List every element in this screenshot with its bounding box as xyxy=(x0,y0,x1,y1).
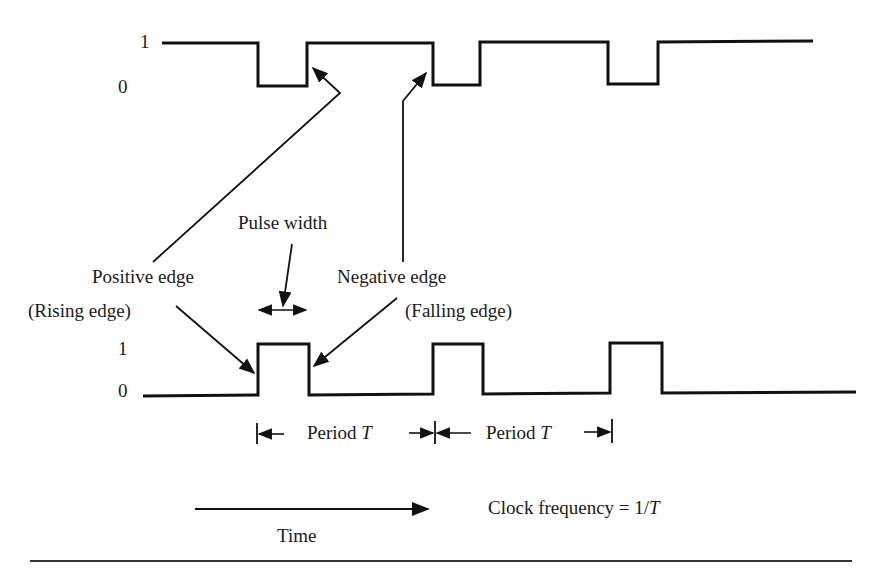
clock-frequency-label: Clock frequency = 1/T xyxy=(488,497,660,519)
positive-edge-arrow-bottom xyxy=(176,306,254,373)
period-2-text: Period xyxy=(486,422,540,443)
positive-edge-label: Positive edge xyxy=(92,266,194,288)
period-1-var: T xyxy=(361,422,372,443)
pulse-width-label: Pulse width xyxy=(238,212,327,234)
period-2-label: Period T xyxy=(486,422,551,444)
negative-edge-arrow-top xyxy=(403,73,426,262)
rising-edge-label: (Rising edge) xyxy=(28,300,131,322)
top-waveform xyxy=(162,41,813,86)
negative-edge-arrow-bottom xyxy=(314,298,397,366)
negative-edge-label: Negative edge xyxy=(337,266,446,288)
period-1-text: Period xyxy=(307,422,361,443)
time-label: Time xyxy=(277,525,316,547)
period-2-var: T xyxy=(540,422,551,443)
top-label-high: 1 xyxy=(140,31,150,53)
pulse-width-arrow xyxy=(283,244,292,306)
bottom-label-low: 0 xyxy=(118,380,128,402)
clock-frequency-var: T xyxy=(649,497,660,518)
falling-edge-label: (Falling edge) xyxy=(405,300,512,322)
bottom-label-high: 1 xyxy=(118,338,128,360)
period-1-label: Period T xyxy=(307,422,372,444)
clock-frequency-text: Clock frequency = 1/ xyxy=(488,497,649,518)
top-label-low: 0 xyxy=(118,76,128,98)
